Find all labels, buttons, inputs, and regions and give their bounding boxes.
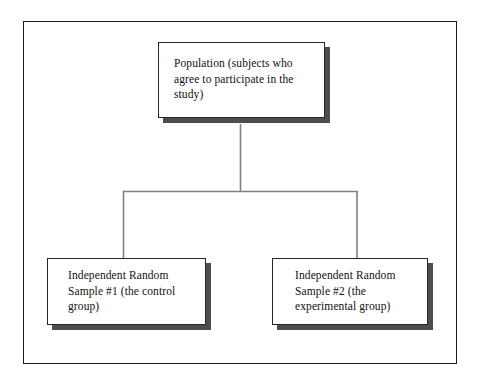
node-sample-1: Independent Random Sample #1 (the contro…: [47, 258, 206, 325]
node-sample-2-label: Independent Random Sample #2 (the experi…: [295, 268, 420, 315]
node-population-label: Population (subjects who agree to partic…: [174, 56, 316, 103]
node-population-body: Population (subjects who agree to partic…: [158, 42, 325, 118]
diagram-canvas: Population (subjects who agree to partic…: [0, 0, 479, 386]
node-sample-1-label: Independent Random Sample #1 (the contro…: [68, 268, 196, 315]
node-population: Population (subjects who agree to partic…: [158, 42, 325, 118]
node-sample-2-body: Independent Random Sample #2 (the experi…: [272, 258, 428, 325]
node-sample-2: Independent Random Sample #2 (the experi…: [272, 258, 428, 325]
node-sample-1-body: Independent Random Sample #1 (the contro…: [47, 258, 206, 325]
